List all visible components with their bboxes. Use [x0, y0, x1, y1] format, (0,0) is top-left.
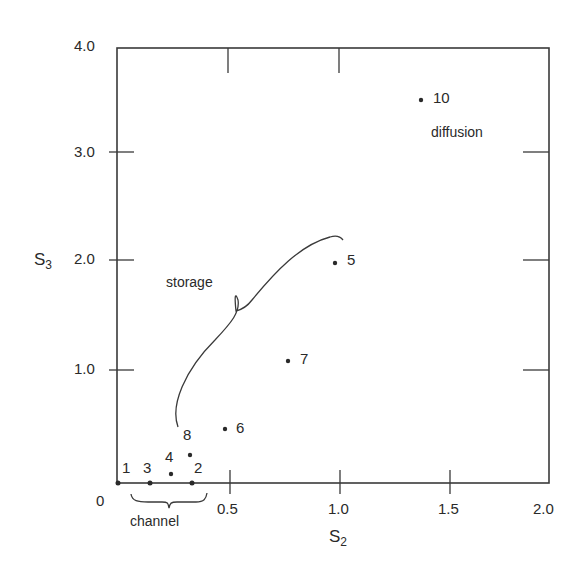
storage-brace [176, 236, 343, 427]
point-label-3: 3 [143, 459, 151, 476]
point-1 [116, 481, 121, 486]
point-label-4: 4 [165, 448, 173, 465]
plot-frame [117, 48, 549, 483]
point-label-5: 5 [347, 251, 355, 268]
data-points [116, 98, 424, 486]
x-tick-label-1.0: 1.0 [328, 500, 349, 517]
point-label-6: 6 [236, 419, 244, 436]
point-4 [169, 472, 173, 476]
point-7 [286, 359, 290, 363]
point-2 [190, 481, 195, 486]
scatter-plot [0, 0, 587, 573]
x-axis-title-sub: 2 [340, 535, 347, 549]
y-axis-title-sub: 3 [45, 258, 52, 272]
channel-annotation: channel [130, 513, 179, 529]
y-ticks [109, 152, 549, 370]
x-tick-label-0.5: 0.5 [217, 500, 238, 517]
y-tick-label-4: 4.0 [74, 37, 95, 54]
y-axis-title: S3 [34, 250, 52, 272]
point-label-2: 2 [194, 459, 202, 476]
origin-label: 0 [96, 492, 104, 509]
x-tick-label-1.5: 1.5 [438, 500, 459, 517]
point-10 [419, 98, 423, 102]
channel-brace [131, 493, 207, 508]
point-3 [148, 481, 153, 486]
point-5 [333, 261, 337, 265]
x-ticks [228, 48, 450, 494]
point-label-7: 7 [300, 350, 308, 367]
point-label-8: 8 [183, 426, 191, 443]
point-label-10: 10 [433, 89, 450, 106]
y-tick-label-1: 1.0 [74, 360, 95, 377]
point-6 [223, 427, 227, 431]
y-tick-label-2: 2.0 [74, 250, 95, 267]
y-axis-title-main: S [34, 250, 45, 269]
diffusion-annotation: diffusion [431, 124, 483, 140]
x-axis-title: S2 [329, 527, 347, 549]
point-label-1: 1 [122, 459, 130, 476]
y-tick-label-3: 3.0 [74, 143, 95, 160]
x-tick-label-2.0: 2.0 [533, 500, 554, 517]
storage-annotation: storage [166, 274, 213, 290]
point-8 [188, 453, 192, 457]
x-axis-title-main: S [329, 527, 340, 546]
